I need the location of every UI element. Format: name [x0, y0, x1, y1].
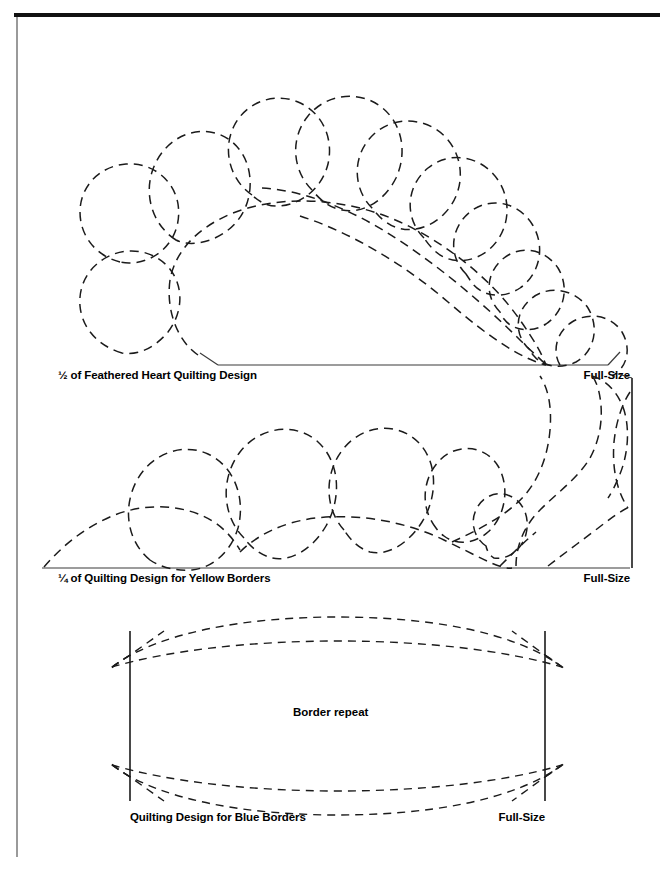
- yellow-stem-top-curl: [592, 376, 627, 498]
- page-top-rule: [14, 13, 660, 17]
- caption-yellow-border: ¼ of Quilting Design for Yellow Borders: [58, 573, 271, 585]
- blue-tail-top-left: [112, 631, 164, 667]
- yellow-stem-base-sweep: [548, 506, 632, 566]
- yellow-spine-lower-left: [44, 507, 240, 567]
- figure-feathered-heart: [0, 40, 660, 380]
- blue-tail-top-right: [512, 631, 562, 667]
- figure-yellow-border: [0, 370, 660, 580]
- blue-outer-arc-bottom: [112, 765, 562, 815]
- yellow-stem-outer: [516, 376, 601, 566]
- feather-baseline-right-tip: [608, 352, 620, 365]
- blue-outer-arc-top: [112, 617, 562, 667]
- feather-lobe-3: [149, 131, 250, 243]
- yellow-scroll-curl: [473, 494, 527, 559]
- feather-spine-inner-2: [300, 216, 546, 365]
- yellow-frame-corner: [618, 374, 632, 378]
- feather-lobe-6: [357, 121, 460, 230]
- caption-blue-border: Quilting Design for Blue Borders: [130, 812, 306, 824]
- feather-lobe-11: [556, 316, 627, 376]
- feather-lobe-8: [454, 203, 540, 295]
- yellow-stem-inner: [614, 392, 630, 508]
- feather-spine-inner: [262, 188, 546, 365]
- yellow-spine-rise: [452, 376, 551, 542]
- yellow-spine-lower-mid: [240, 517, 512, 569]
- blue-inner-arc-top: [112, 641, 562, 667]
- caption-yellow-border-scale: Full-Size: [450, 573, 630, 585]
- caption-blue-border-scale: Full-Size: [420, 812, 545, 824]
- blue-inner-arc-bottom: [112, 765, 562, 791]
- feather-lobe-1: [80, 251, 180, 354]
- yellow-lobe-3: [329, 428, 434, 552]
- label-border-repeat: Border repeat: [293, 707, 368, 719]
- feather-lobe-2: [80, 164, 179, 263]
- scanned-page: ½ of Feathered Heart Quilting Design Ful…: [0, 0, 660, 877]
- feather-lobe-7: [410, 158, 507, 261]
- feather-baseline-left-tip: [200, 353, 218, 365]
- yellow-lobe-1: [128, 449, 240, 570]
- feather-lobe-10: [518, 290, 594, 366]
- blue-tail-bottom-right: [512, 765, 562, 801]
- yellow-lobe-2: [226, 429, 336, 558]
- blue-tail-bottom-left: [112, 765, 164, 801]
- feather-lobe-5: [296, 96, 402, 210]
